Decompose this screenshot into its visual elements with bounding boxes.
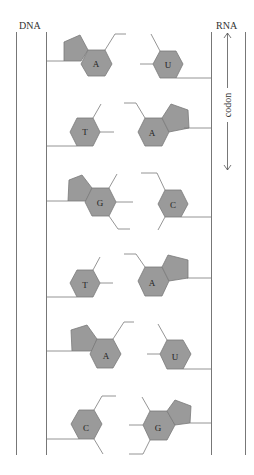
dna-base-letter: T — [82, 280, 88, 290]
rna-base-letter: G — [155, 423, 162, 433]
dna-base-letter: A — [103, 351, 110, 361]
pair-3: G C — [46, 173, 211, 230]
rna-base-letter: A — [149, 128, 156, 138]
codon-label: codon — [222, 93, 233, 117]
dna-base-letter: A — [93, 59, 100, 69]
pair-5: A U — [46, 322, 212, 369]
dna-base-letter: T — [82, 127, 88, 137]
backbone-lines — [17, 32, 246, 455]
rna-base-letter: U — [165, 60, 172, 70]
rna-base-letter: A — [149, 278, 156, 288]
pair-2: T A — [46, 103, 211, 146]
dna-base-letter: C — [83, 423, 89, 433]
pair-6: C G — [46, 396, 212, 454]
pair-4: T A — [46, 254, 211, 297]
dna-rna-diagram: codon A U T A — [0, 0, 254, 475]
pair-1: A U — [46, 34, 211, 78]
dna-base-letter: G — [97, 198, 104, 208]
rna-base-letter: U — [172, 352, 179, 362]
rna-base-letter: C — [170, 200, 176, 210]
